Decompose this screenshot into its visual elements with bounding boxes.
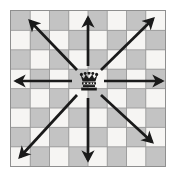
board-square [146,108,165,127]
board-square [107,30,126,49]
board-square [107,50,126,69]
board-square [30,108,49,127]
board-square [69,127,88,146]
board-square [88,11,107,30]
board-square [146,89,165,108]
board-square [69,147,88,166]
board-square [127,11,146,30]
board-square [11,108,30,127]
board-square [11,89,30,108]
board-square [50,11,69,30]
board-square [146,50,165,69]
board-square [50,69,69,88]
board-square [50,30,69,49]
board-square [127,30,146,49]
board-square [30,89,49,108]
board-square [127,108,146,127]
board-square [30,11,49,30]
black-queen-piece [78,71,99,91]
board-square [146,69,165,88]
board-square [107,89,126,108]
board-square [11,11,30,30]
board-square [11,50,30,69]
board-square [50,147,69,166]
board-square [127,89,146,108]
board-square [69,30,88,49]
chess-queen-movement-figure [0,0,176,180]
board-square [146,30,165,49]
board-square [50,50,69,69]
board-square [11,127,30,146]
board-square [11,69,30,88]
board-square [50,108,69,127]
board-square [88,50,107,69]
board-square [88,89,107,108]
board-square [11,30,30,49]
board-square [30,147,49,166]
board-square [50,127,69,146]
board-square [146,127,165,146]
board-square [30,69,49,88]
board-square [127,69,146,88]
board-square [30,127,49,146]
board-square [107,108,126,127]
board-square [107,147,126,166]
board-square [107,127,126,146]
queen-icon [79,72,99,91]
board-square [127,50,146,69]
board-square [30,30,49,49]
board-square [88,127,107,146]
board-square [127,147,146,166]
board-square [69,89,88,108]
board-square [69,50,88,69]
board-square [69,108,88,127]
board-square [69,11,88,30]
board-square [107,11,126,30]
board-square [146,147,165,166]
board-square [127,127,146,146]
board-square [88,30,107,49]
board-square [107,69,126,88]
board-square [50,89,69,108]
board-square [11,147,30,166]
board-square [88,147,107,166]
board-square [146,11,165,30]
board-square [88,108,107,127]
board-square [30,50,49,69]
